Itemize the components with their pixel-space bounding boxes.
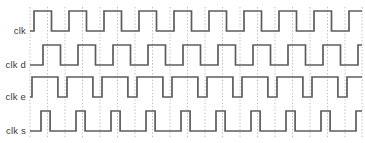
gridlines-group: [30, 7, 362, 138]
waveform-clk-d: [30, 45, 362, 65]
signal-label-clk-s: clk s: [6, 125, 26, 136]
waveform-clk-e: [30, 77, 362, 97]
waveform-canvas: clkclk dclk eclk s: [0, 0, 365, 143]
waveform-clk-s: [30, 111, 362, 131]
waveforms-group: [30, 11, 362, 131]
waveform-clk: [30, 11, 362, 31]
signal-label-clk-e: clk e: [5, 91, 26, 102]
signal-label-clk: clk: [14, 25, 26, 36]
signal-labels-group: clkclk dclk eclk s: [5, 25, 26, 136]
timing-diagram: clkclk dclk eclk s: [0, 0, 365, 143]
signal-label-clk-d: clk d: [5, 59, 26, 70]
